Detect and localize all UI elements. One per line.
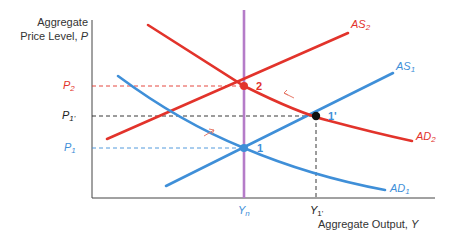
equilibrium-point-1prime bbox=[312, 112, 320, 120]
y-axis-label-line1: Aggregate bbox=[20, 15, 88, 29]
as2-label-text: AS bbox=[351, 18, 366, 30]
ad1-label-text: AD bbox=[390, 182, 405, 194]
y1prime-tick-label: Y1' bbox=[310, 204, 323, 216]
as2-label-sub: 2 bbox=[366, 23, 370, 32]
ad2-label-sub: 2 bbox=[431, 135, 435, 144]
y1prime-tick-sub: 1' bbox=[317, 209, 323, 218]
as1-label: AS1 bbox=[396, 60, 415, 72]
y-axis-label: Aggregate Price Level, P bbox=[20, 15, 88, 43]
ad2-label-text: AD bbox=[416, 130, 431, 142]
point-1-label: 1 bbox=[257, 142, 263, 154]
equilibrium-point-2 bbox=[240, 82, 248, 90]
p1-tick-label: P1 bbox=[64, 141, 76, 153]
point-1prime-label: 1' bbox=[328, 110, 337, 122]
p1prime-tick-sub: 1' bbox=[69, 114, 75, 123]
as2-label: AS2 bbox=[351, 18, 370, 30]
equilibrium-point-1 bbox=[240, 144, 248, 152]
p1-tick-sub: 1 bbox=[71, 146, 75, 155]
y-axis-label-line2: Price Level, bbox=[20, 30, 81, 42]
p1prime-tick-label: P1' bbox=[62, 109, 75, 121]
x-axis-label-var: Y bbox=[411, 218, 418, 230]
p2-tick-sub: 2 bbox=[70, 84, 74, 93]
p2-tick-label: P2 bbox=[63, 79, 75, 91]
as1-label-sub: 1 bbox=[411, 65, 415, 74]
ad1-label-sub: 1 bbox=[405, 187, 409, 196]
y-axis-label-var: P bbox=[81, 30, 88, 42]
x-axis-label: Aggregate Output, Y bbox=[318, 218, 418, 230]
yn-tick-label: Yn bbox=[238, 204, 250, 216]
as1-label-text: AS bbox=[396, 60, 411, 72]
arrow-up-left-icon bbox=[284, 90, 294, 98]
ad1-curve bbox=[118, 76, 385, 190]
ad1-label: AD1 bbox=[390, 182, 410, 194]
yn-tick-sub: n bbox=[245, 209, 249, 218]
point-2-label: 2 bbox=[256, 80, 262, 92]
x-axis-label-text: Aggregate Output, bbox=[318, 218, 411, 230]
ad2-label: AD2 bbox=[416, 130, 436, 142]
